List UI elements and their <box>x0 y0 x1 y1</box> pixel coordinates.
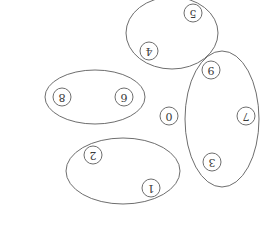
node-1: 1 <box>142 179 160 197</box>
node-8: 8 <box>53 88 71 106</box>
group-ellipses <box>45 0 259 204</box>
node-label: 3 <box>209 156 216 169</box>
node-4: 4 <box>140 42 158 60</box>
node-label: 6 <box>121 91 128 104</box>
node-2: 2 <box>84 146 102 164</box>
node-9: 9 <box>202 61 220 79</box>
cluster-diagram: 0123456789 <box>0 0 272 225</box>
node-3: 3 <box>203 153 221 171</box>
node-label: 2 <box>90 149 97 162</box>
node-7: 7 <box>237 107 255 125</box>
node-5: 5 <box>184 4 202 22</box>
node-label: 9 <box>208 64 215 77</box>
node-0: 0 <box>160 107 178 125</box>
node-label: 1 <box>148 182 155 195</box>
node-6: 6 <box>115 88 133 106</box>
node-label: 0 <box>166 110 173 123</box>
group-bottom-ellipse <box>66 138 180 204</box>
number-nodes: 0123456789 <box>53 4 255 197</box>
node-label: 5 <box>190 7 197 20</box>
node-label: 7 <box>243 110 250 123</box>
node-label: 8 <box>59 91 66 104</box>
node-label: 4 <box>146 45 153 58</box>
